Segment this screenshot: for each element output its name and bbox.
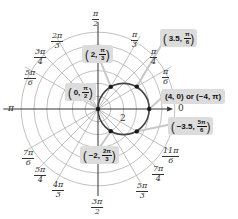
callout-point-2-pi3: ( 2, π3 ) (82, 45, 113, 63)
callout-r: −2, (89, 151, 100, 160)
arrow-icon (167, 107, 173, 112)
numerator: 5π (197, 119, 207, 127)
numerator: π (184, 31, 191, 39)
angle-label-4pi-over-3: 4π3 (52, 174, 64, 199)
data-point (109, 85, 113, 89)
angle-label-0: 0 (178, 104, 184, 113)
denominator: 2 (95, 208, 100, 217)
denominator: 6 (26, 159, 31, 168)
angle-label-11pi-over-6: 11π6 (162, 140, 179, 165)
denominator: 6 (186, 39, 189, 46)
callout-theta: π3 (99, 47, 106, 61)
denominator: 6 (168, 157, 173, 166)
callout-theta: π2 (82, 85, 89, 99)
callout-r: 0, (74, 88, 81, 97)
paren-close: ) (112, 148, 116, 162)
denominator: 6 (28, 79, 33, 88)
angle-label-5pi-over-3: 5π3 (136, 175, 148, 200)
denominator: 2 (84, 93, 87, 100)
angle-label-5pi-over-6: 5π6 (24, 62, 36, 87)
callout-theta: π6 (184, 31, 191, 45)
angle-label-3pi-over-2: 3π2 (91, 191, 103, 216)
data-point (96, 107, 100, 111)
denominator: 4 (38, 176, 43, 185)
denominator: 4 (156, 175, 161, 184)
angle-label-5pi-over-4: 5π4 (34, 159, 46, 184)
paren-open: ( (171, 119, 175, 133)
data-point (147, 107, 151, 111)
callout-point-3.5-pi6: ( 3.5, π6 ) (160, 29, 197, 47)
angle-label-pi-over-4: π4 (150, 41, 157, 66)
angle-label-pi-over-2: π2 (92, 3, 99, 28)
angle-label-pi-over-3: π3 (131, 24, 138, 49)
denominator: 4 (151, 58, 156, 67)
angle-label-pi-over-6: π6 (162, 61, 169, 86)
denominator: 6 (200, 127, 203, 134)
paren-open: ( (83, 148, 87, 162)
numerator: 2π (102, 148, 112, 156)
callout-r: 2, (91, 50, 98, 59)
denominator: 3 (101, 55, 104, 62)
callout-point-0-pi2: ( 0, π2 ) (65, 83, 96, 101)
radial-tick-label: 2 (120, 114, 126, 123)
angle-label-2pi-over-3: 2π3 (51, 25, 63, 50)
callout-text: (4, 0) or (−4, π) (165, 92, 221, 101)
numerator: π (82, 85, 89, 93)
denominator: 3 (132, 41, 137, 50)
denominator: 6 (163, 78, 168, 87)
paren-close: ) (106, 47, 110, 61)
paren-open: ( (163, 31, 167, 45)
callout-point-neg3.5-5pi6: ( −3.5, 5π6 ) (168, 117, 213, 135)
polar-diagram: π2 π3 π4 π6 0 2π3 3π4 5π6 π 7π6 5π4 4π3 … (0, 0, 238, 219)
polar-grid (0, 0, 238, 219)
denominator: 3 (56, 191, 61, 200)
denominator: 2 (93, 20, 98, 29)
paren-open: ( (68, 85, 72, 99)
denominator: 4 (38, 58, 43, 67)
angle-label-7pi-over-6: 7π6 (22, 142, 34, 167)
paren-close: ) (191, 31, 195, 45)
data-point (135, 129, 139, 133)
paren-open: ( (85, 47, 89, 61)
denominator: 3 (140, 192, 145, 201)
numerator: π (99, 47, 106, 55)
callout-r: 3.5, (169, 34, 182, 43)
angle-label-pi: π (8, 104, 14, 113)
data-point (135, 84, 139, 88)
callout-point-neg2-2pi3: ( −2, 2π3 ) (80, 146, 119, 164)
paren-close: ) (89, 85, 93, 99)
paren-close: ) (207, 119, 211, 133)
callout-theta: 5π6 (197, 119, 207, 133)
callout-theta: 2π3 (102, 148, 112, 162)
denominator: 3 (55, 42, 60, 51)
data-point (109, 129, 113, 133)
callout-point-4-0: (4, 0) or (−4, π) (161, 89, 225, 104)
denominator: 3 (105, 156, 108, 163)
callout-r: −3.5, (177, 122, 195, 131)
